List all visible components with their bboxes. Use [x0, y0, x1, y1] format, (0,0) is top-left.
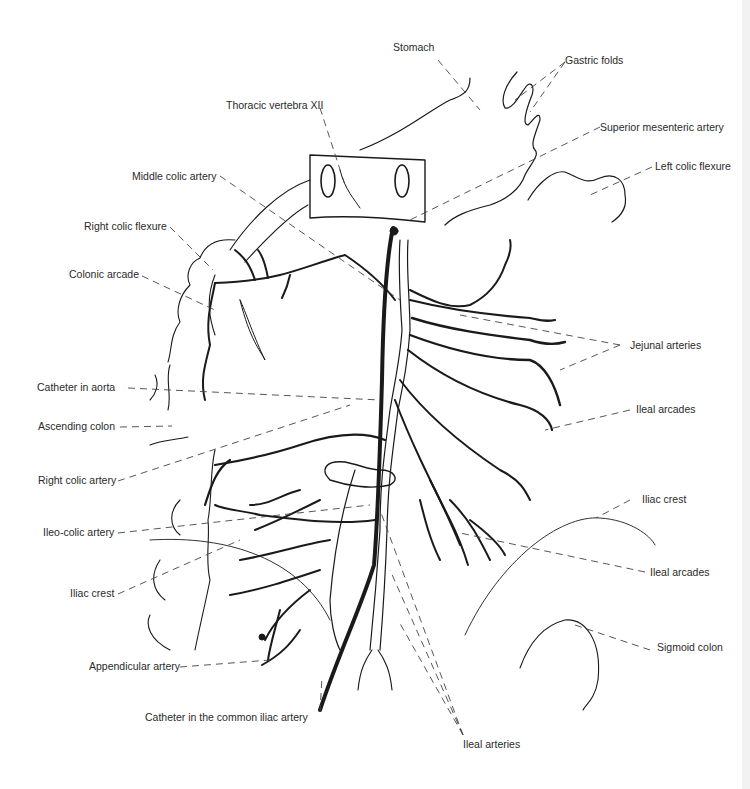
- page-edge-shadow: [742, 0, 750, 789]
- anatomy-diagram: Stomach Gastric folds Thoracic vertebra …: [0, 0, 750, 789]
- label-catheter-common-iliac: Catheter in the common iliac artery: [145, 711, 308, 723]
- label-right-colic-flexure: Right colic flexure: [84, 220, 167, 232]
- label-ascending-colon: Ascending colon: [38, 420, 115, 432]
- stomach-outline: [360, 78, 470, 150]
- appendicular-vessel: [262, 610, 300, 665]
- ileal-artery-1: [408, 350, 552, 430]
- label-ileo-colic-artery: Ileo-colic artery: [43, 526, 114, 538]
- ileal-artery-2: [400, 380, 530, 500]
- label-iliac-crest-right: Iliac crest: [642, 493, 686, 505]
- iliac-crest-right-line: [465, 518, 655, 635]
- label-superior-mesenteric-artery: Superior mesenteric artery: [600, 121, 724, 133]
- jejunal-artery-3: [412, 318, 565, 344]
- label-ileal-arteries: Ileal arteries: [463, 738, 520, 750]
- jejunal-artery-2: [410, 300, 555, 321]
- sma-trunk: [370, 240, 410, 650]
- label-thoracic-vertebra: Thoracic vertebra XII: [226, 99, 323, 111]
- label-ileal-arcades-upper: Ileal arcades: [636, 403, 696, 415]
- right-colic-vessel: [215, 435, 385, 465]
- right-colic-flexure-outline: [230, 180, 310, 262]
- catheter-loop: [325, 462, 395, 487]
- vertebra-pedicle-left: [321, 165, 335, 197]
- left-colic-flexure-outline: [528, 172, 626, 222]
- label-jejunal-arteries: Jejunal arteries: [630, 339, 701, 351]
- gastric-fold-outline: [445, 72, 540, 225]
- aorta-catheter: [320, 228, 393, 710]
- ascending-colon-outline: [150, 240, 235, 650]
- label-appendicular-artery: Appendicular artery: [89, 660, 180, 672]
- label-gastric-folds: Gastric folds: [565, 54, 623, 66]
- middle-colic-branch: [215, 255, 395, 300]
- jejunal-artery-1: [410, 240, 511, 306]
- label-ileal-arcades-lower: Ileal arcades: [650, 566, 710, 578]
- label-left-colic-flexure: Left colic flexure: [655, 160, 731, 172]
- iliac-crest-left-line: [150, 539, 330, 620]
- sigmoid-colon-outline: [520, 620, 599, 710]
- label-sigmoid-colon: Sigmoid colon: [657, 641, 723, 653]
- vertebra-pedicle-right: [395, 165, 409, 197]
- label-right-colic-artery: Right colic artery: [38, 474, 116, 486]
- label-colonic-arcade: Colonic arcade: [69, 268, 139, 280]
- label-iliac-crest-left: Iliac crest: [70, 587, 114, 599]
- label-stomach: Stomach: [393, 41, 434, 53]
- label-middle-colic-artery: Middle colic artery: [132, 170, 217, 182]
- label-catheter-in-aorta: Catheter in aorta: [37, 381, 115, 393]
